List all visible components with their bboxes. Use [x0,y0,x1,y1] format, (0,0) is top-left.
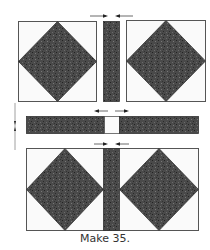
square-in-square-unit-top-right [127,21,206,102]
pressing-arrows-bottom [94,142,129,145]
row-pressing-arrow [14,103,16,150]
sashing-strip-bottom [104,149,120,231]
pressing-arrows-top [90,14,133,17]
top-row [19,14,206,101]
arrow-right-icon [103,142,108,145]
arrow-left-icon [115,14,120,17]
arrow-left-icon [115,142,120,145]
sashing-strip-middle-right [120,117,199,134]
sashing-strip-middle-left [27,117,105,134]
square-in-square-unit-top-left [19,22,97,102]
caption: Make 35. [0,232,210,245]
arrow-right-icon [124,109,129,112]
arrow-right-icon [103,14,108,17]
pressing-arrows-middle [94,109,129,112]
assembly-diagram [0,0,210,250]
sashing-strip-top [104,22,120,102]
bottom-row [27,142,199,230]
cornerstone-square [105,117,120,134]
arrow-left-icon [94,109,99,112]
sashing-row [27,109,199,133]
